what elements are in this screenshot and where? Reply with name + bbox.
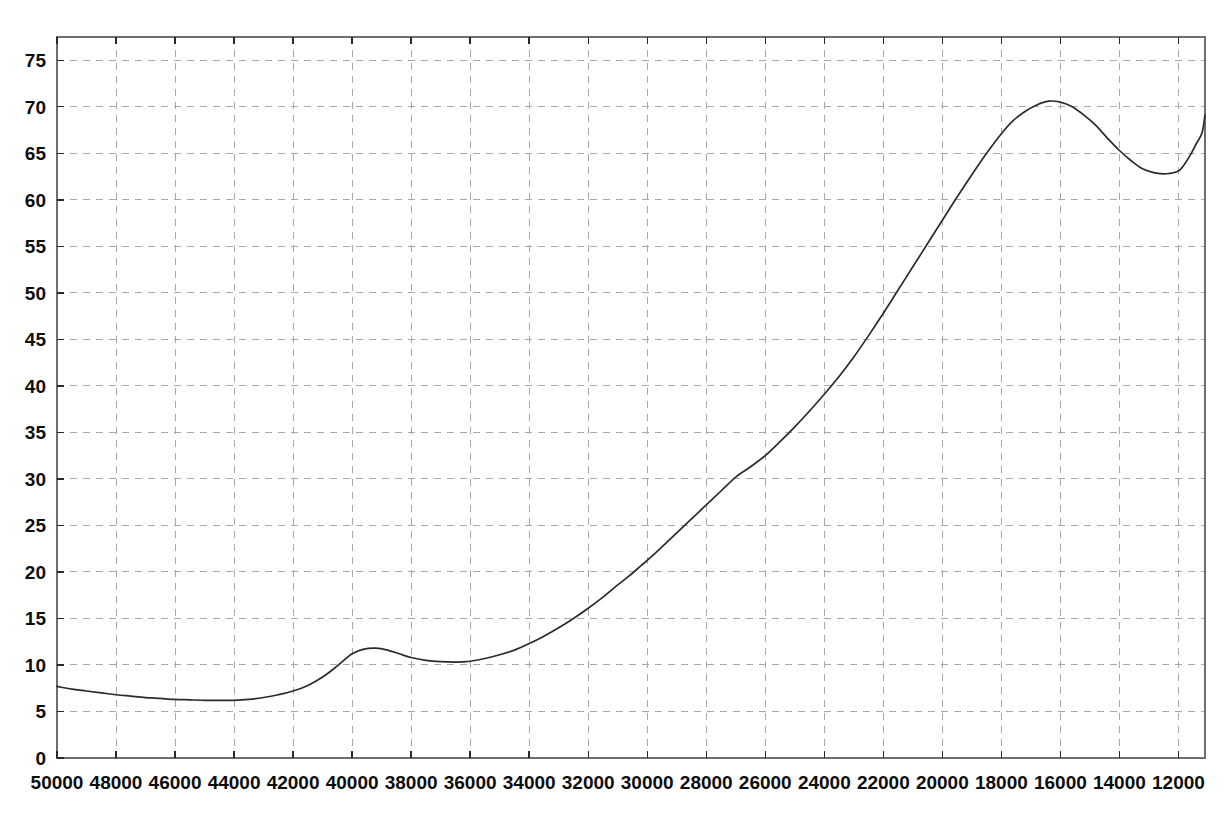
x-tick-label: 30000	[621, 772, 674, 793]
x-gridlines	[57, 37, 1178, 758]
y-tick-label: 5	[35, 701, 46, 722]
x-tick-label: 38000	[385, 772, 438, 793]
y-tick-label: 0	[35, 748, 46, 769]
x-tick-label: 16000	[1034, 772, 1087, 793]
x-tick-label: 14000	[1093, 772, 1146, 793]
y-axis-tick-labels: 051015202530354045505560657075	[25, 50, 47, 769]
chart-container: 5000048000460004400042000400003800036000…	[0, 0, 1231, 823]
line-chart: 5000048000460004400042000400003800036000…	[0, 0, 1231, 823]
x-tick-label: 48000	[90, 772, 143, 793]
y-tick-label: 25	[25, 515, 47, 536]
x-tick-label: 18000	[975, 772, 1028, 793]
x-tick-label: 32000	[562, 772, 615, 793]
y-tick-label: 20	[25, 562, 46, 583]
y-axis-ticks	[57, 60, 64, 758]
x-tick-label: 40000	[326, 772, 379, 793]
y-tick-label: 10	[25, 655, 46, 676]
x-tick-label: 24000	[798, 772, 851, 793]
y-tick-label: 35	[25, 422, 47, 443]
x-tick-label: 50000	[31, 772, 84, 793]
x-axis-ticks	[57, 37, 1178, 758]
y-tick-label: 30	[25, 469, 46, 490]
y-tick-label: 65	[25, 143, 47, 164]
gridlines-layer	[57, 37, 1205, 758]
y-gridlines	[57, 60, 1205, 758]
x-tick-label: 28000	[680, 772, 733, 793]
y-tick-label: 55	[25, 236, 47, 257]
x-tick-label: 34000	[503, 772, 556, 793]
data-series-curve	[57, 101, 1205, 700]
x-axis-tick-labels: 5000048000460004400042000400003800036000…	[31, 772, 1205, 793]
x-tick-label: 20000	[916, 772, 969, 793]
series-layer	[57, 101, 1205, 700]
y-tick-label: 75	[25, 50, 47, 71]
plot-frame-rect	[57, 37, 1205, 758]
y-tick-label: 50	[25, 283, 46, 304]
x-tick-label: 22000	[857, 772, 910, 793]
y-tick-label: 70	[25, 97, 46, 118]
x-tick-label: 44000	[208, 772, 261, 793]
x-tick-label: 46000	[149, 772, 202, 793]
y-tick-label: 40	[25, 376, 46, 397]
y-tick-label: 45	[25, 329, 47, 350]
y-tick-label: 15	[25, 608, 47, 629]
x-tick-label: 12000	[1152, 772, 1205, 793]
plot-frame	[57, 37, 1205, 758]
x-tick-label: 26000	[739, 772, 792, 793]
x-tick-label: 42000	[267, 772, 320, 793]
x-tick-label: 36000	[444, 772, 497, 793]
y-tick-label: 60	[25, 190, 46, 211]
